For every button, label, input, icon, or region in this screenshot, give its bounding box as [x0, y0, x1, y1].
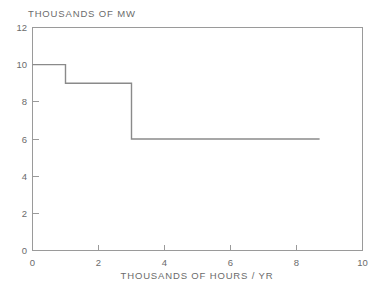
x-tick-label-10: 10 — [357, 257, 368, 268]
x-tick-label-8: 8 — [294, 257, 299, 268]
x-tick-label-6: 6 — [228, 257, 233, 268]
y-tick-label-4: 4 — [22, 171, 27, 182]
y-tick-label-10: 10 — [16, 59, 27, 70]
y-tick-label-6: 6 — [22, 134, 27, 145]
y-axis-tick-labels: 12 10 8 6 4 2 0 — [16, 22, 27, 256]
y-tick-label-2: 2 — [22, 208, 27, 219]
y-axis-title: THOUSANDS OF MW — [28, 8, 136, 19]
x-tick-label-2: 2 — [96, 257, 101, 268]
x-axis-title: THOUSANDS OF HOURS / YR — [121, 270, 274, 281]
chart-figure: 12 10 8 6 4 2 0 0 2 4 6 8 10 THOUSANDS O… — [0, 0, 381, 286]
y-tick-label-12: 12 — [16, 22, 27, 33]
x-tick-label-0: 0 — [30, 257, 35, 268]
y-tick-label-8: 8 — [22, 96, 27, 107]
x-tick-label-4: 4 — [162, 257, 167, 268]
chart-canvas: 12 10 8 6 4 2 0 0 2 4 6 8 10 THOUSANDS O… — [0, 0, 381, 286]
y-tick-label-0: 0 — [22, 245, 27, 256]
x-axis-tick-labels: 0 2 4 6 8 10 — [30, 257, 368, 268]
